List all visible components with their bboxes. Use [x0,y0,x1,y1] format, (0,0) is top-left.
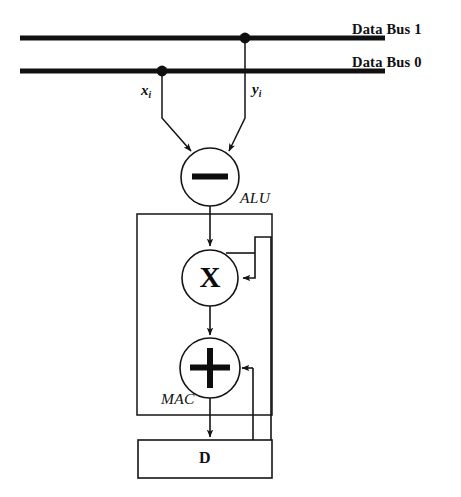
x-signal-subscript: i [149,90,152,100]
y-signal-label: yi [252,82,261,97]
diagram-canvas: Data Bus 1 Data Bus 0 xi yi ALU MAC X D [0,0,461,497]
y-signal-subscript: i [259,89,262,99]
alu-label: ALU [240,190,270,206]
x-tap-wire [162,73,191,151]
diagram-vector-layer [0,0,461,497]
y-tap-wire [229,40,245,151]
multiply-glyph-icon: X [196,263,224,292]
y-tap-junction-dot [240,33,251,44]
plus-glyph-vertical-icon [207,348,213,388]
x-signal-base: x [141,82,149,98]
x-tap-junction-dot [157,66,168,77]
y-signal-base: y [252,81,259,97]
mac-label: MAC [161,391,195,407]
feedback-to-adder-wire [242,368,253,440]
data-bus-0-label: Data Bus 0 [352,55,422,70]
x-signal-label: xi [141,83,151,98]
minus-glyph-icon [192,174,228,180]
data-bus-1-label: Data Bus 1 [352,22,422,37]
d-register-label: D [199,450,211,466]
